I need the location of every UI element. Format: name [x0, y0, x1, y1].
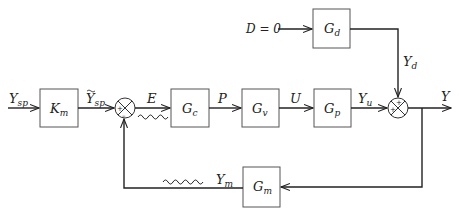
- label-ym: Ym: [216, 172, 233, 189]
- label-yu: Yu: [358, 91, 373, 108]
- label-ysp: Ysp: [9, 91, 28, 108]
- noise-wave-e: [138, 115, 168, 119]
- svg-text:+: +: [390, 106, 396, 114]
- arrow-yd: [350, 29, 398, 97]
- arrow-ym: [124, 119, 243, 188]
- label-u: U: [290, 91, 302, 106]
- label-y: Y: [441, 89, 451, 104]
- label-p: P: [217, 91, 227, 106]
- label-d: D = 0: [245, 22, 281, 36]
- noise-wave-ym: [163, 180, 203, 184]
- label-ysp-tilde: Ysp: [86, 91, 105, 108]
- svg-text:+: +: [396, 99, 402, 107]
- summing-junction-1: + –: [115, 98, 135, 120]
- label-e: E: [146, 91, 157, 106]
- summing-junction-2: + +: [388, 98, 408, 118]
- block-diagram: Ysp Km Ysp + – E Gc P Gv U Gp Yu D = 0 G…: [0, 0, 459, 216]
- label-yd: Yd: [403, 54, 418, 71]
- svg-text:–: –: [122, 112, 126, 120]
